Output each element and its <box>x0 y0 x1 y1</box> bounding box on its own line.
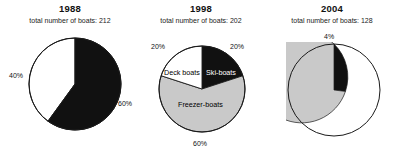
pct-label-1988-right: 60% <box>118 100 132 108</box>
pct-label-2004-top: 4% <box>324 33 334 41</box>
chart-panel-2004: 2004 total number of boats: 128 4% <box>266 0 398 161</box>
pct-label-1998-top-left: 20% <box>151 43 165 51</box>
chart-subtitle-1988: total number of boats: 212 <box>0 16 140 25</box>
pie-1988 <box>27 36 123 132</box>
chart-panel-1998: 1998 total number of boats: 202 20% 20% … <box>136 0 266 161</box>
pct-label-1998-top-right: 20% <box>230 43 244 51</box>
pie-chart-figure: 1988 total number of boats: 212 40% 60% … <box>0 0 398 161</box>
chart-title-1998: 1998 <box>136 3 266 14</box>
chart-title-2004: 2004 <box>266 3 398 14</box>
slice-label-1998-deck-boats: Deck boats <box>164 69 200 77</box>
chart-panel-1988: 1988 total number of boats: 212 40% 60% <box>0 0 140 161</box>
slice-2004-ski-boats <box>334 44 348 91</box>
chart-subtitle-2004: total number of boats: 128 <box>266 16 398 25</box>
pie-2004 <box>286 42 382 138</box>
slice-label-1998-ski-boats: Ski-boats <box>206 69 236 77</box>
pie-1998 <box>157 44 247 134</box>
chart-subtitle-1998: total number of boats: 202 <box>136 16 266 25</box>
pct-label-1988-left: 40% <box>9 72 23 80</box>
slice-label-1998-freezer-boats: Freezer-boats <box>178 101 223 109</box>
chart-title-1988: 1988 <box>0 3 140 14</box>
pct-label-1998-bottom: 60% <box>193 140 207 148</box>
